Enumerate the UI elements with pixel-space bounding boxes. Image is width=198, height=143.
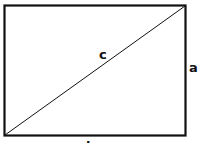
label-b: b xyxy=(86,139,95,143)
label-a: a xyxy=(189,60,198,75)
label-c: c xyxy=(99,47,107,62)
diagonal-line xyxy=(5,6,185,135)
rectangle-diagram: c a b xyxy=(0,0,198,143)
